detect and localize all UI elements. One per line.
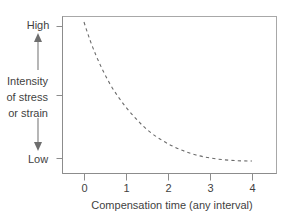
x-tick-label-4: 4 — [249, 182, 255, 194]
y-axis-title-line-3: or strain — [8, 107, 48, 119]
y-axis-high-label: High — [27, 19, 50, 31]
y-axis-title-line-1: Intensity — [7, 75, 48, 87]
decay-curve-path — [84, 22, 252, 161]
x-tick-label-3: 3 — [207, 182, 213, 194]
x-tick-label-2: 2 — [165, 182, 171, 194]
down-arrow-icon — [34, 142, 42, 151]
plot-frame — [63, 17, 277, 174]
x-tick-label-0: 0 — [81, 182, 87, 194]
up-arrow-icon — [34, 33, 42, 42]
y-axis-low-label: Low — [28, 153, 48, 165]
x-tick-label-1: 1 — [123, 182, 129, 194]
chart-figure: High Low Intensity of stress or strain 0… — [0, 0, 297, 216]
decay-chart: High Low Intensity of stress or strain 0… — [0, 0, 297, 216]
y-axis-title-line-2: of stress — [6, 91, 48, 103]
x-axis-title: Compensation time (any interval) — [91, 199, 252, 211]
